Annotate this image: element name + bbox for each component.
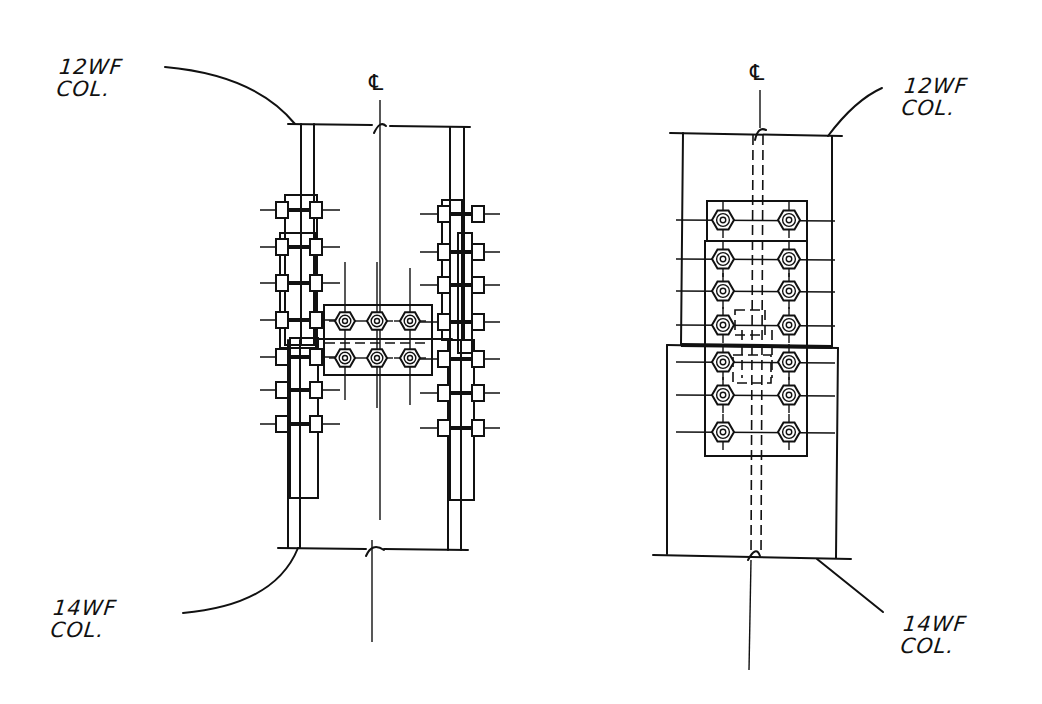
- bottom-line: [278, 548, 366, 549]
- centerline-symbol-left: ℄: [369, 70, 383, 95]
- leader-14wf-left: [183, 548, 298, 613]
- splice-drawing: [0, 0, 1042, 704]
- centerline-symbol-right: ℄: [750, 60, 764, 85]
- left-elevation-view: [165, 67, 500, 642]
- right-side-view: [653, 88, 883, 670]
- label-14wf-col-left: 14WF COL.: [50, 597, 118, 641]
- splice-bolt-group: [676, 202, 835, 450]
- leader-12wf-left: [165, 67, 295, 124]
- leader-14wf-right: [817, 559, 883, 612]
- leader-12wf-right: [828, 88, 882, 136]
- label-12wf-col-right: 12WF COL.: [901, 75, 969, 119]
- label-12wf-col-left: 12WF COL.: [56, 56, 124, 100]
- right-centerline: [749, 560, 751, 670]
- label-14wf-col-right: 14WF COL.: [900, 613, 968, 657]
